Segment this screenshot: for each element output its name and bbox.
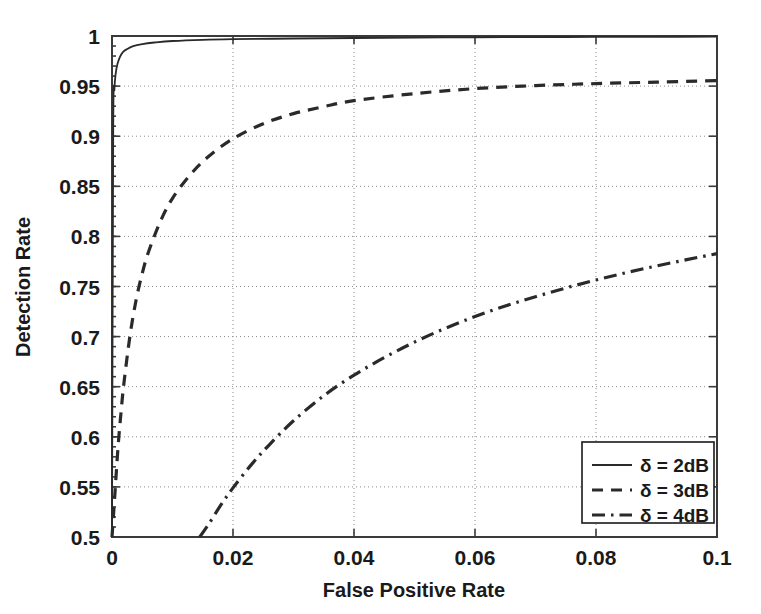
y-tick-label: 0.8 xyxy=(71,225,101,248)
y-tick-label: 0.65 xyxy=(59,376,100,399)
y-tick-label: 0.6 xyxy=(71,426,100,449)
x-tick-label: 0.1 xyxy=(702,546,732,569)
y-tick-label: 0.95 xyxy=(59,75,100,98)
x-axis-title: False Positive Rate xyxy=(323,579,505,601)
x-tick-labels: 00.020.040.060.080.1 xyxy=(106,546,732,569)
y-tick-label: 0.5 xyxy=(71,526,101,549)
legend-label: δ = 4dB xyxy=(640,505,709,526)
y-tick-label: 0.55 xyxy=(59,476,100,499)
y-tick-labels: 0.50.550.60.650.70.750.80.850.90.951 xyxy=(59,25,100,549)
y-tick-label: 1 xyxy=(88,25,100,48)
y-axis-title: Detection Rate xyxy=(12,217,34,357)
y-tick-label: 0.75 xyxy=(59,276,100,299)
roc-chart-svg: 00.020.040.060.080.1 0.50.550.60.650.70.… xyxy=(0,0,761,614)
x-tick-label: 0 xyxy=(106,546,118,569)
legend-label: δ = 3dB xyxy=(640,480,709,501)
y-tick-label: 0.85 xyxy=(59,175,100,198)
legend: δ = 2dBδ = 3dBδ = 4dB xyxy=(582,442,714,526)
x-tick-label: 0.04 xyxy=(334,546,375,569)
x-tick-label: 0.08 xyxy=(576,546,617,569)
x-tick-label: 0.06 xyxy=(455,546,496,569)
legend-label: δ = 2dB xyxy=(640,455,709,476)
y-tick-label: 0.7 xyxy=(71,326,100,349)
x-tick-label: 0.02 xyxy=(213,546,254,569)
y-tick-label: 0.9 xyxy=(71,125,100,148)
roc-chart-figure: 00.020.040.060.080.1 0.50.550.60.650.70.… xyxy=(0,0,761,614)
